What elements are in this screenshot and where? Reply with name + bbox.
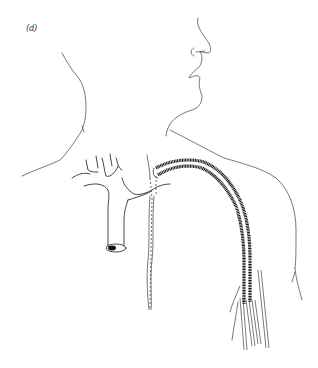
panel-label-text: (d): [26, 24, 37, 33]
drawing-canvas: [0, 0, 318, 368]
arm-outline: [295, 268, 302, 300]
jugular-outline: [147, 155, 150, 178]
neck-outline: [22, 53, 86, 176]
jugular-dashed-1: [150, 178, 152, 198]
medical-illustration: (d): [0, 0, 318, 368]
nostril: [191, 48, 194, 56]
lip-line: [196, 51, 205, 52]
tunnelled-catheter: [153, 160, 250, 304]
face-profile: [166, 18, 211, 136]
vessel-tree: [72, 154, 170, 252]
arm-outline-split: [292, 272, 295, 282]
panel-label: (d): [26, 24, 37, 33]
beaded-line: [147, 196, 154, 310]
